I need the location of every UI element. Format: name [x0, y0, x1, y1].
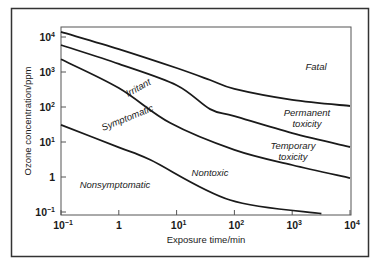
region-label: Permanent [284, 107, 331, 118]
region-label: toxicity [278, 151, 308, 162]
region-label: Nontoxic [192, 167, 229, 178]
x-axis-label: Exposure time/min [167, 234, 246, 245]
region-label: Temporary [270, 140, 316, 151]
y-axis-label: Ozone concentration/ppm [22, 67, 33, 176]
region-label: Fatal [305, 61, 327, 72]
x-tick-label: 1 [116, 219, 122, 231]
y-tick-label: 1 [49, 171, 55, 183]
region-label: Nonsymptomatic [80, 179, 151, 190]
ozone-toxicity-chart: 10−11101102103104 10−11101102103104 Fata… [0, 0, 374, 267]
region-label: toxicity [292, 118, 322, 129]
